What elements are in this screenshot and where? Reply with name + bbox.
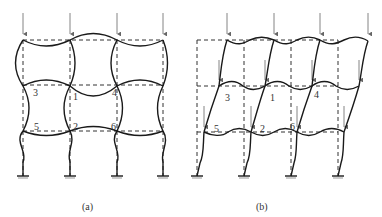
load-arrows-b — [204, 13, 368, 127]
supports-a — [17, 176, 169, 178]
supports-b — [191, 176, 344, 178]
node-label-b-4: 4 — [314, 89, 319, 100]
fixed-support-icon — [285, 176, 297, 178]
node-label-b-6: 6 — [290, 121, 295, 132]
node-label-b-5: 5 — [214, 123, 219, 134]
deformed-frame-b — [197, 37, 368, 176]
fixed-support-icon — [191, 176, 203, 178]
node-label-a-2: 2 — [73, 121, 78, 132]
fixed-support-icon — [238, 176, 250, 178]
node-label-b-1: 1 — [270, 92, 275, 103]
fixed-support-icon — [64, 176, 76, 178]
fixed-support-icon — [111, 176, 123, 178]
original-frame-b — [197, 40, 338, 176]
fixed-support-icon — [332, 176, 344, 178]
node-label-a-5: 5 — [34, 121, 39, 132]
node-label-a-6: 6 — [111, 121, 116, 132]
node-label-a-4: 4 — [112, 87, 117, 98]
deformed-frame-a — [16, 34, 168, 177]
caption-a: (a) — [82, 201, 93, 213]
node-label-b-3: 3 — [225, 92, 230, 103]
load-arrows-a — [23, 13, 163, 34]
fixed-support-icon — [17, 176, 29, 178]
node-label-b-2: 2 — [260, 123, 265, 134]
frame-buckling-diagram: 3 1 4 5 2 6 (a) — [0, 0, 382, 217]
node-label-a-1: 1 — [73, 91, 78, 102]
original-frame-a — [23, 40, 163, 176]
figure-b: 3 1 4 5 2 6 (b) — [191, 13, 368, 213]
figure-a: 3 1 4 5 2 6 (a) — [16, 13, 170, 213]
node-label-a-3: 3 — [33, 87, 38, 98]
fixed-support-icon — [157, 176, 169, 178]
caption-b: (b) — [256, 201, 268, 213]
